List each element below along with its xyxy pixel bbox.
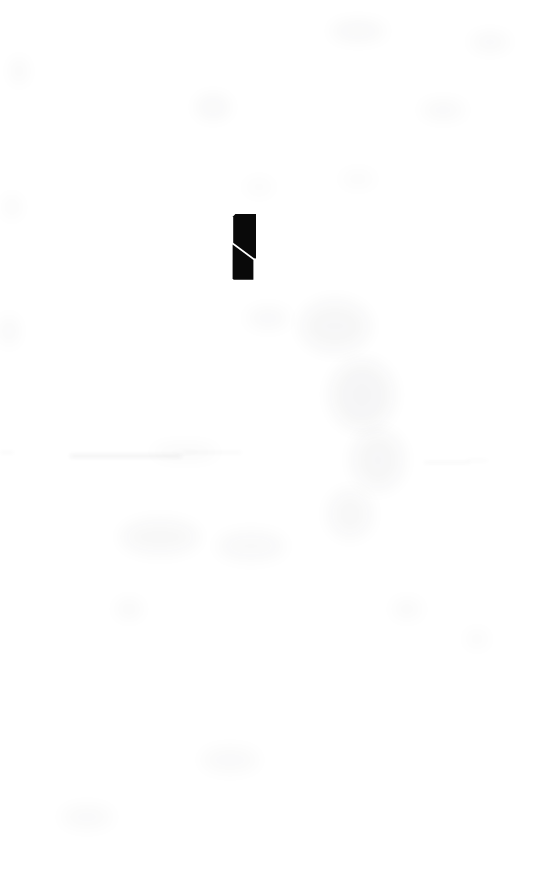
- scan-smudge: [196, 96, 230, 118]
- scan-smudge: [244, 180, 274, 194]
- scan-streak: [0, 452, 14, 453]
- scan-smudge: [466, 632, 488, 646]
- scan-smudge: [352, 430, 404, 490]
- scan-smudge: [60, 806, 114, 828]
- scan-smudge: [200, 748, 260, 772]
- scan-smudge: [340, 172, 376, 186]
- scan-smudge: [300, 300, 370, 352]
- scan-streak: [424, 462, 470, 463]
- scan-smudge: [420, 102, 466, 118]
- scan-smudge: [6, 196, 18, 218]
- scan-streak: [182, 452, 242, 453]
- scan-smudge: [120, 520, 200, 554]
- scan-smudge: [330, 360, 394, 430]
- paper-texture-layer: [0, 0, 542, 888]
- scan-smudge: [470, 34, 510, 50]
- scan-smudge: [2, 316, 16, 346]
- ink-mark: [232, 213, 258, 281]
- scan-smudge: [150, 446, 220, 458]
- scan-smudge: [116, 600, 142, 618]
- page-text-content: [0, 0, 1, 1]
- scan-streak: [70, 455, 182, 457]
- scan-smudge: [216, 532, 286, 560]
- scan-streak: [466, 460, 488, 461]
- scanned-page: [0, 0, 542, 888]
- ink-mark-glyph: [232, 213, 258, 281]
- scan-smudge: [330, 22, 386, 40]
- scan-smudge: [14, 58, 24, 84]
- scan-smudge: [328, 490, 372, 538]
- scan-smudge: [246, 308, 290, 328]
- scan-smudge: [392, 600, 422, 618]
